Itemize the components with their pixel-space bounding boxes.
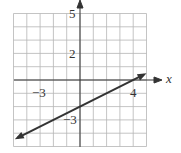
x-tick-label-4: 4: [130, 86, 137, 99]
y-axis-arrow-icon: [77, 0, 83, 8]
axes: [14, 0, 162, 147]
y-tick-label-neg3: −3: [63, 113, 77, 126]
x-axis-arrow-icon: [154, 77, 162, 83]
line-arrow-end-icon: [137, 73, 147, 80]
y-tick-label-2: 2: [69, 47, 76, 60]
x-axis-label: x: [166, 72, 172, 85]
y-tick-label-5: 5: [69, 7, 76, 20]
x-tick-label-neg3: −3: [32, 86, 46, 99]
coordinate-plane: [0, 0, 181, 153]
